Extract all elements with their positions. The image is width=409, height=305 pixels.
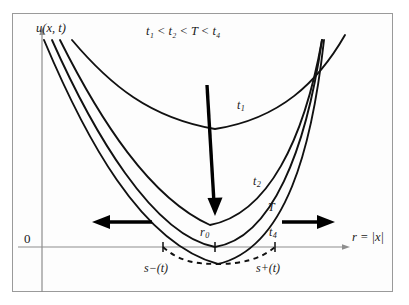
curve-T — [52, 40, 322, 247]
axis-group — [18, 27, 350, 292]
point-label-s-minus: s−(t) — [144, 262, 168, 274]
plot-canvas — [0, 0, 409, 305]
curve-label-t2: t2 — [253, 175, 261, 189]
downward-evolution-arrow — [207, 85, 223, 216]
curve-label-t1: t1 — [237, 99, 245, 113]
rightward-spread-arrow — [282, 215, 335, 229]
origin-label: 0 — [24, 232, 31, 245]
curve-label-t1-sub: 1 — [241, 104, 245, 113]
x-axis-arrowhead — [342, 244, 350, 249]
curve-label-T-base: T — [268, 200, 275, 214]
figure-root: u(x, t) t₁ < t₂ < T < t₄ t1 t2 T t4 r0 0… — [0, 0, 409, 305]
time-ordering-annotation: t₁ < t₂ < T < t₄ — [146, 25, 220, 38]
y-axis-label: u(x, t) — [36, 22, 66, 35]
leftward-spread-arrow — [92, 215, 152, 229]
curve-label-t2-sub: 2 — [257, 180, 261, 189]
curve-t4 — [44, 40, 324, 264]
curve-label-t4: t4 — [269, 226, 277, 240]
point-label-s-plus: s+(t) — [256, 262, 280, 274]
curve-label-t4-sub: 4 — [273, 231, 277, 240]
point-label-r0: r0 — [200, 226, 209, 240]
curve-label-t4-base: t — [269, 225, 272, 239]
point-label-r0-base: r — [200, 225, 205, 239]
curve-label-t1-base: t — [237, 98, 240, 112]
point-label-r0-sub: 0 — [205, 231, 209, 240]
curve-label-t2-base: t — [253, 174, 256, 188]
curves-group — [44, 35, 345, 264]
curve-label-T: T — [268, 201, 275, 213]
x-axis-label: r = |x| — [352, 231, 384, 244]
